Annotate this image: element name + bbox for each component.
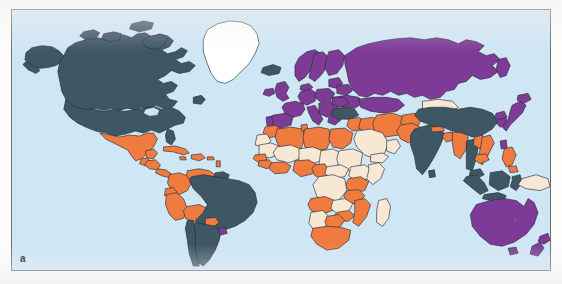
island-jamaica [179, 157, 186, 160]
figure-root: .cty { stroke: #2b2b33; stroke-width: 0.… [0, 0, 562, 284]
panel-letter: a [20, 254, 26, 264]
island-lesser-antilles [216, 161, 220, 167]
country-taiwan [500, 140, 507, 149]
country-philippines-south [508, 166, 518, 173]
country-libya [303, 127, 331, 151]
island-sri-lanka [428, 170, 435, 178]
map-panel: .cty { stroke: #2b2b33; stroke-width: 0.… [11, 9, 551, 271]
world-map-svg: .cty { stroke: #2b2b33; stroke-width: 0.… [12, 10, 550, 270]
country-turkey [331, 107, 359, 119]
island-puerto-rico [207, 157, 214, 160]
country-portugal [266, 116, 273, 126]
